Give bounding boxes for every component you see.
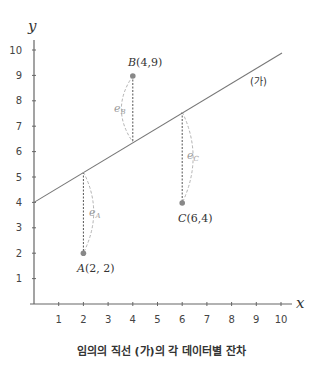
- residual-b: eB: [114, 76, 133, 142]
- x-tick-label: 10: [275, 314, 288, 325]
- y-tick-label: 10: [9, 45, 22, 56]
- y-tick-label: 4: [16, 197, 22, 208]
- residual-c-label: eC: [187, 149, 200, 163]
- x-axis-label: x: [296, 294, 305, 312]
- residual-b-label: eB: [114, 102, 126, 116]
- y-tick-label: 1: [16, 273, 22, 284]
- x-tick-label: 6: [179, 314, 185, 325]
- regression-line: [34, 53, 282, 202]
- point-c-label: C(6,4): [178, 212, 213, 225]
- y-tick-label: 8: [16, 95, 22, 106]
- x-tick-label: 4: [130, 314, 136, 325]
- y-axis-label: y: [27, 17, 37, 35]
- y-tick-label: 2: [16, 248, 22, 259]
- point-b-label: B(4,9): [127, 56, 162, 69]
- y-tick-label: 3: [16, 222, 22, 233]
- x-tick-label: 3: [105, 314, 111, 325]
- point-a: [81, 250, 87, 256]
- y-tick-label: 7: [16, 121, 22, 132]
- x-ticks: 12345678910: [56, 302, 288, 325]
- x-tick-label: 9: [253, 314, 259, 325]
- x-tick-label: 8: [228, 314, 234, 325]
- line-label-ga: (가): [250, 76, 267, 87]
- y-ticks: 12345678910: [9, 45, 36, 285]
- x-tick-label: 1: [56, 314, 62, 325]
- y-tick-label: 5: [16, 172, 22, 183]
- point-b: [130, 73, 136, 79]
- residual-c: eC: [182, 112, 199, 203]
- point-c: [179, 200, 185, 206]
- y-tick-label: 9: [16, 70, 22, 81]
- chart-caption: 임의의 직선 (가)의 각 데이터별 잔차: [0, 342, 323, 358]
- x-tick-label: 2: [80, 314, 86, 325]
- residual-a: eA: [83, 172, 100, 253]
- point-a-label: A(2, 2): [76, 262, 115, 275]
- residual-chart: 12345678910 12345678910 y x (가) eA eB eC…: [0, 0, 323, 377]
- y-tick-label: 6: [16, 146, 22, 157]
- residual-a-label: eA: [89, 206, 101, 220]
- x-tick-label: 5: [154, 314, 160, 325]
- x-tick-label: 7: [204, 314, 210, 325]
